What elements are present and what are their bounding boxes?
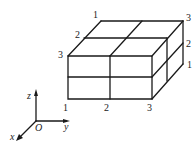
coordinate-axes: z y x O bbox=[9, 89, 70, 142]
label-right-mid: 2 bbox=[186, 38, 191, 49]
z-axis-label: z bbox=[26, 90, 31, 101]
label-front-bottom-right: 3 bbox=[147, 102, 152, 113]
z-arrow-icon bbox=[34, 89, 38, 96]
x-axis bbox=[20, 121, 36, 137]
block bbox=[68, 21, 183, 99]
label-back-top-right: 3 bbox=[186, 12, 191, 23]
label-front-bottom-mid: 2 bbox=[104, 102, 109, 113]
label-right-bottom: 1 bbox=[187, 59, 192, 70]
origin-label: O bbox=[35, 122, 42, 133]
label-top-back-left: 1 bbox=[93, 9, 98, 20]
label-top-mid-left: 2 bbox=[75, 29, 80, 40]
vertex-labels: 1 2 3 3 2 1 1 2 3 bbox=[58, 9, 192, 113]
x-axis-label: x bbox=[9, 131, 15, 142]
label-front-bottom-left: 1 bbox=[63, 102, 68, 113]
label-top-front-left: 3 bbox=[58, 49, 63, 60]
block-diagram: 1 2 3 3 2 1 1 2 3 z y x O bbox=[0, 0, 196, 148]
y-axis-label: y bbox=[63, 121, 69, 132]
